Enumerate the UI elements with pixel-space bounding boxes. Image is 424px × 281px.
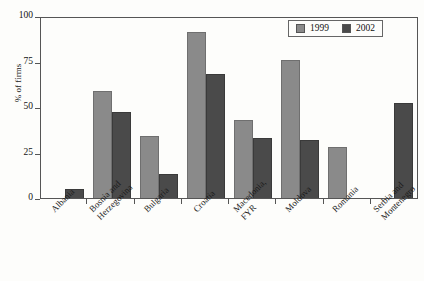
y-axis-tick: 50 [0, 108, 40, 109]
x-axis-label-cell: Moldova [276, 205, 323, 281]
bar-group [370, 18, 417, 198]
legend-label: 1999 [310, 23, 329, 33]
y-axis-tick-label: 25 [24, 147, 34, 157]
bar-1999 [93, 91, 112, 198]
y-axis-tick-label: 75 [24, 56, 34, 66]
bar-1999 [328, 147, 347, 198]
bar-2002 [206, 74, 225, 198]
x-axis-label-cell: Croatia [182, 205, 229, 281]
legend: 19992002 [288, 20, 383, 37]
x-axis-label-cell: Macedonia, FYR [229, 205, 276, 281]
y-axis-ticks: 0255075100 [0, 0, 40, 200]
x-axis-labels: AlbaniaBosnia and HerzegovinaBulgariaCro… [40, 205, 418, 281]
bar-group [229, 18, 276, 198]
bar-group [323, 18, 370, 198]
plot-area [40, 17, 418, 199]
x-axis-label-cell: Bulgaria [135, 205, 182, 281]
x-axis-label-cell: Albania [40, 205, 87, 281]
y-axis-tick-label: 100 [19, 10, 33, 20]
x-axis-label-cell: Serbia and Montenegro [371, 205, 418, 281]
bar-group [41, 18, 88, 198]
bar-1999 [281, 60, 300, 198]
bar-1999 [187, 32, 206, 198]
bar-1999 [140, 136, 159, 198]
legend-item-1999: 1999 [296, 23, 329, 33]
bar-groups [41, 18, 417, 198]
x-axis-label-cell: Bosnia and Herzegovina [87, 205, 134, 281]
bar-chart: % of firms 0255075100 AlbaniaBosnia and … [0, 0, 424, 281]
y-axis-tick: 75 [0, 63, 40, 64]
bar-group [182, 18, 229, 198]
y-axis-tick: 0 [0, 199, 40, 200]
bar-1999 [234, 120, 253, 198]
legend-item-2002: 2002 [342, 23, 375, 33]
bar-group [88, 18, 135, 198]
legend-swatch-icon [342, 24, 351, 33]
y-axis-tick-label: 50 [24, 101, 34, 111]
legend-swatch-icon [296, 24, 305, 33]
bar-group [135, 18, 182, 198]
x-axis-label-cell: Romania [324, 205, 371, 281]
legend-label: 2002 [356, 23, 375, 33]
bar-group [276, 18, 323, 198]
y-axis-tick: 25 [0, 154, 40, 155]
y-axis-tick: 100 [0, 17, 40, 18]
y-axis-tick-label: 0 [28, 192, 33, 202]
